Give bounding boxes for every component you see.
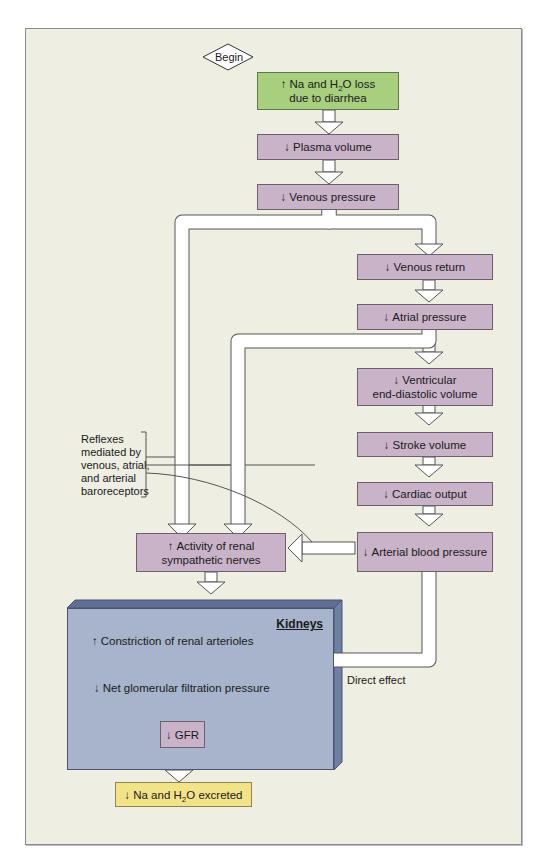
- direct-effect-label: Direct effect: [347, 673, 406, 687]
- kidneys-title: Kidneys: [276, 617, 323, 631]
- down-arrow-icon: ↓: [383, 487, 389, 501]
- node-ventricular-edv: ↓Ventricular end-diastolic volume: [357, 368, 493, 406]
- constriction-label: ↑Constriction of renal arterioles: [92, 634, 254, 648]
- down-arrow-icon: ↓: [393, 374, 399, 386]
- down-arrow-icon: ↓: [94, 682, 100, 694]
- node-renal-sympathetic: ↑Activity of renal sympathetic nerves: [136, 533, 286, 572]
- node-na-h2o-loss: ↑Na and H2O loss due to diarrhea: [257, 72, 399, 110]
- node-cardiac-output: ↓Cardiac output: [357, 482, 493, 506]
- node-gfr: ↓GFR: [160, 721, 205, 748]
- up-arrow-icon: ↑: [281, 78, 287, 90]
- node-arterial-bp: ↓Arterial blood pressure: [357, 532, 493, 572]
- node-venous-return: ↓Venous return: [357, 254, 493, 280]
- node-na-h2o-excreted: ↓Na and H2O excreted: [115, 782, 252, 807]
- down-arrow-icon: ↓: [124, 789, 130, 801]
- up-arrow-icon: ↑: [168, 540, 174, 552]
- node-plasma-volume: ↓Plasma volume: [257, 134, 399, 160]
- node-venous-pressure: ↓Venous pressure: [257, 184, 399, 210]
- down-arrow-icon: ↓: [385, 260, 391, 274]
- node-atrial-pressure: ↓Atrial pressure: [357, 304, 493, 330]
- down-arrow-icon: ↓: [384, 310, 390, 324]
- net-filtration-label: ↓Net glomerular filtration pressure: [94, 681, 270, 695]
- reflexes-annotation: Reflexes mediated by venous, atrial, and…: [81, 433, 149, 498]
- up-arrow-icon: ↑: [92, 635, 98, 647]
- down-arrow-icon: ↓: [166, 728, 172, 742]
- down-arrow-icon: ↓: [384, 438, 390, 452]
- begin-label: Begin: [215, 50, 243, 64]
- down-arrow-icon: ↓: [363, 545, 369, 559]
- down-arrow-icon: ↓: [280, 190, 286, 204]
- down-arrow-icon: ↓: [284, 140, 290, 154]
- node-stroke-volume: ↓Stroke volume: [357, 432, 493, 457]
